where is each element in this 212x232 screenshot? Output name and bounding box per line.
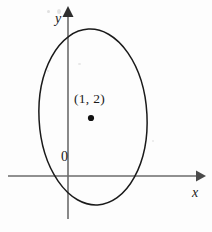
y-axis-label: y	[55, 12, 61, 26]
scan-speck	[152, 140, 154, 142]
center-point-marker	[88, 115, 94, 121]
x-axis-arrow-icon	[196, 171, 206, 182]
diagram-canvas	[0, 0, 212, 232]
origin-label: 0	[61, 150, 68, 164]
scan-speck	[47, 70, 49, 72]
scan-speck	[47, 10, 50, 13]
x-axis-label: x	[192, 186, 198, 200]
scan-speck	[57, 9, 61, 14]
y-axis-arrow-icon	[63, 6, 74, 17]
center-point-label: (1, 2)	[74, 92, 105, 106]
scan-speck	[78, 63, 81, 65]
figure-ellipse-diagram: y x 0 (1, 2)	[0, 0, 212, 232]
